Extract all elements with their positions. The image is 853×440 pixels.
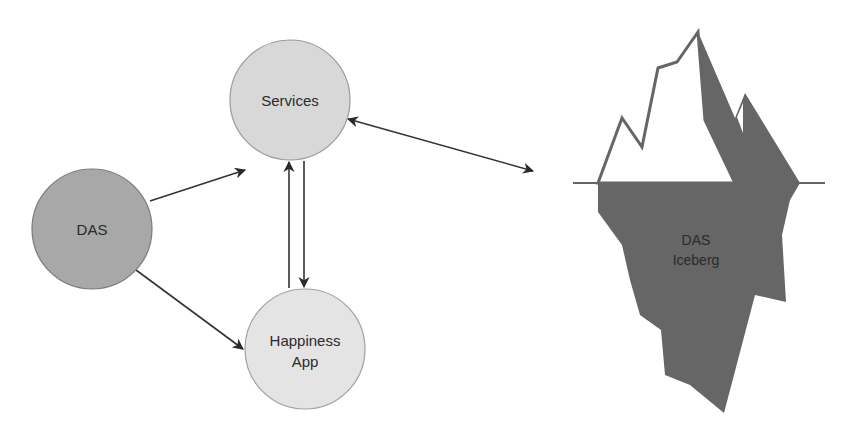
diagram-canvas: Services DAS Happiness App DAS Iceberg [0,0,853,440]
node-services: Services [230,40,350,160]
node-das-label: DAS [77,221,108,238]
node-services-label: Services [261,92,319,109]
iceberg-underwater [598,183,800,413]
edge-das-to-services [150,170,245,201]
iceberg-label-line1: DAS [682,232,711,248]
node-happiness-app-circle [245,289,365,409]
edge-services-iceberg-bidirectional [348,119,533,171]
node-happiness-app-label-line2: App [292,353,319,370]
iceberg-illustration: DAS Iceberg [573,32,825,413]
node-das: DAS [32,169,152,289]
iceberg-label-line2: Iceberg [673,252,720,268]
node-happiness-app: Happiness App [245,289,365,409]
edge-das-to-happiness-app [136,270,243,349]
node-happiness-app-label-line1: Happiness [270,332,341,349]
